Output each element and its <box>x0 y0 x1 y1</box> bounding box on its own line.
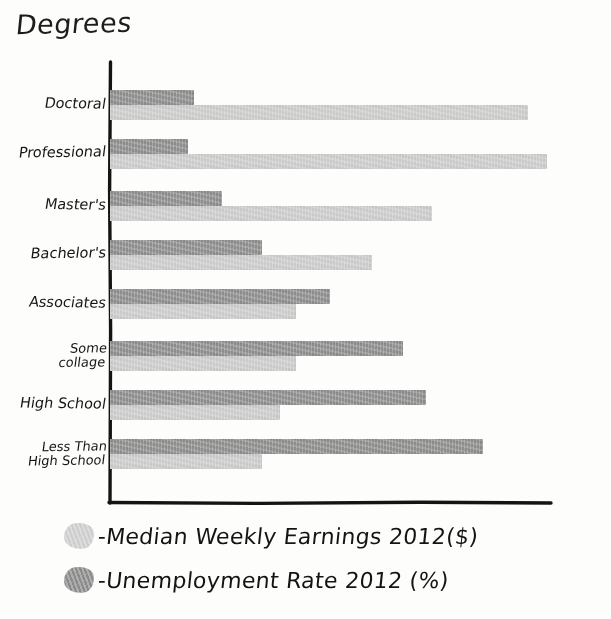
unemployment-bar <box>110 240 262 255</box>
earnings-bar <box>110 454 262 469</box>
bar-group <box>110 341 551 371</box>
bar-group <box>110 240 551 270</box>
bar-group <box>110 191 551 221</box>
category-label: Master's <box>0 196 113 213</box>
unemployment-bar <box>110 90 194 105</box>
hand-drawn-bar-chart: Degrees DoctoralProfessionalMaster'sBach… <box>0 0 611 619</box>
unemployment-bar <box>110 390 426 405</box>
earnings-bar <box>110 304 296 319</box>
category-label: Doctoral <box>0 95 113 112</box>
earnings-bar <box>110 206 432 221</box>
unemployment-bar <box>110 439 483 454</box>
unemployment-bar <box>110 139 188 154</box>
bar-group <box>110 289 551 319</box>
unemployment-bar <box>110 341 403 356</box>
bar-group <box>110 390 551 420</box>
category-label: Some collage <box>0 341 114 371</box>
earnings-bar <box>110 105 528 120</box>
bar-group <box>110 90 551 120</box>
earnings-bar <box>110 405 280 420</box>
category-label: Associates <box>0 294 113 311</box>
earnings-bar <box>110 154 547 169</box>
unemployment-bar <box>110 289 330 304</box>
earnings-bar <box>110 255 372 270</box>
earnings-bar <box>110 356 296 371</box>
unemployment-bar <box>110 191 222 206</box>
unemployment-swatch-icon <box>63 566 96 595</box>
category-label: High School <box>0 395 113 412</box>
earnings-swatch-icon <box>63 522 96 551</box>
legend-label-unemployment: -Unemployment Rate 2012 (%) <box>97 568 450 593</box>
legend-item-earnings: -Median Weekly Earnings 2012($) <box>64 514 604 558</box>
bar-group <box>110 139 551 169</box>
legend-label-earnings: -Median Weekly Earnings 2012($) <box>97 524 480 549</box>
bar-group <box>110 439 551 469</box>
x-axis-line <box>109 502 551 503</box>
category-label: Less Than High School <box>0 439 114 469</box>
page-title: Degrees <box>14 7 133 40</box>
category-label: Professional <box>0 144 113 161</box>
category-label: Bachelor's <box>0 245 113 262</box>
chart-legend: -Median Weekly Earnings 2012($) -Unemplo… <box>64 514 604 602</box>
legend-item-unemployment: -Unemployment Rate 2012 (%) <box>64 558 604 602</box>
plot-area <box>110 62 551 502</box>
